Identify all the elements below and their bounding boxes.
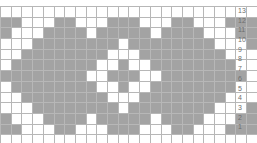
filled-stitch-cell[interactable] [140, 103, 151, 114]
empty-stitch-cell[interactable] [150, 17, 161, 28]
empty-stitch-cell[interactable] [215, 7, 226, 18]
filled-stitch-cell[interactable] [225, 81, 236, 92]
filled-stitch-cell[interactable] [54, 81, 65, 92]
empty-stitch-cell[interactable] [33, 17, 44, 28]
empty-stitch-cell[interactable] [86, 113, 97, 124]
empty-stitch-cell[interactable] [172, 135, 183, 143]
filled-stitch-cell[interactable] [182, 39, 193, 50]
filled-stitch-cell[interactable] [118, 124, 129, 135]
empty-stitch-cell[interactable] [11, 113, 22, 124]
empty-stitch-cell[interactable] [86, 7, 97, 18]
filled-stitch-cell[interactable] [108, 103, 119, 114]
filled-stitch-cell[interactable] [65, 113, 76, 124]
empty-stitch-cell[interactable] [118, 92, 129, 103]
filled-stitch-cell[interactable] [182, 103, 193, 114]
filled-stitch-cell[interactable] [172, 60, 183, 71]
empty-stitch-cell[interactable] [140, 60, 151, 71]
empty-stitch-cell[interactable] [11, 39, 22, 50]
filled-stitch-cell[interactable] [54, 49, 65, 60]
filled-stitch-cell[interactable] [33, 92, 44, 103]
empty-stitch-cell[interactable] [1, 81, 12, 92]
filled-stitch-cell[interactable] [204, 39, 215, 50]
filled-stitch-cell[interactable] [97, 39, 108, 50]
empty-stitch-cell[interactable] [215, 135, 226, 143]
empty-stitch-cell[interactable] [225, 103, 236, 114]
filled-stitch-cell[interactable] [33, 71, 44, 82]
filled-stitch-cell[interactable] [11, 124, 22, 135]
filled-stitch-cell[interactable] [65, 124, 76, 135]
filled-stitch-cell[interactable] [161, 39, 172, 50]
filled-stitch-cell[interactable] [161, 71, 172, 82]
filled-stitch-cell[interactable] [215, 49, 226, 60]
filled-stitch-cell[interactable] [182, 92, 193, 103]
filled-stitch-cell[interactable] [118, 81, 129, 92]
empty-stitch-cell[interactable] [129, 60, 140, 71]
empty-stitch-cell[interactable] [11, 49, 22, 60]
empty-stitch-cell[interactable] [140, 71, 151, 82]
empty-stitch-cell[interactable] [11, 103, 22, 114]
filled-stitch-cell[interactable] [150, 92, 161, 103]
filled-stitch-cell[interactable] [182, 60, 193, 71]
filled-stitch-cell[interactable] [161, 113, 172, 124]
filled-stitch-cell[interactable] [65, 49, 76, 60]
empty-stitch-cell[interactable] [75, 7, 86, 18]
filled-stitch-cell[interactable] [11, 71, 22, 82]
filled-stitch-cell[interactable] [172, 92, 183, 103]
empty-stitch-cell[interactable] [97, 135, 108, 143]
empty-stitch-cell[interactable] [247, 135, 257, 143]
empty-stitch-cell[interactable] [215, 103, 226, 114]
empty-stitch-cell[interactable] [75, 17, 86, 28]
empty-stitch-cell[interactable] [22, 113, 33, 124]
filled-stitch-cell[interactable] [182, 81, 193, 92]
empty-stitch-cell[interactable] [108, 7, 119, 18]
filled-stitch-cell[interactable] [118, 17, 129, 28]
filled-stitch-cell[interactable] [182, 113, 193, 124]
filled-stitch-cell[interactable] [43, 60, 54, 71]
filled-stitch-cell[interactable] [172, 103, 183, 114]
filled-stitch-cell[interactable] [86, 103, 97, 114]
filled-stitch-cell[interactable] [108, 124, 119, 135]
empty-stitch-cell[interactable] [129, 135, 140, 143]
empty-stitch-cell[interactable] [161, 7, 172, 18]
filled-stitch-cell[interactable] [11, 81, 22, 92]
empty-stitch-cell[interactable] [129, 92, 140, 103]
filled-stitch-cell[interactable] [43, 92, 54, 103]
empty-stitch-cell[interactable] [108, 49, 119, 60]
empty-stitch-cell[interactable] [75, 135, 86, 143]
empty-stitch-cell[interactable] [43, 124, 54, 135]
filled-stitch-cell[interactable] [43, 103, 54, 114]
filled-stitch-cell[interactable] [86, 39, 97, 50]
filled-stitch-cell[interactable] [225, 124, 236, 135]
empty-stitch-cell[interactable] [43, 17, 54, 28]
empty-stitch-cell[interactable] [204, 28, 215, 39]
empty-stitch-cell[interactable] [97, 17, 108, 28]
filled-stitch-cell[interactable] [43, 71, 54, 82]
empty-stitch-cell[interactable] [129, 49, 140, 60]
filled-stitch-cell[interactable] [1, 71, 12, 82]
filled-stitch-cell[interactable] [129, 113, 140, 124]
empty-stitch-cell[interactable] [161, 17, 172, 28]
empty-stitch-cell[interactable] [33, 124, 44, 135]
empty-stitch-cell[interactable] [86, 28, 97, 39]
empty-stitch-cell[interactable] [54, 7, 65, 18]
empty-stitch-cell[interactable] [225, 28, 236, 39]
empty-stitch-cell[interactable] [193, 7, 204, 18]
filled-stitch-cell[interactable] [43, 49, 54, 60]
filled-stitch-cell[interactable] [193, 60, 204, 71]
filled-stitch-cell[interactable] [161, 60, 172, 71]
empty-stitch-cell[interactable] [150, 71, 161, 82]
empty-stitch-cell[interactable] [215, 124, 226, 135]
empty-stitch-cell[interactable] [172, 7, 183, 18]
empty-stitch-cell[interactable] [108, 92, 119, 103]
filled-stitch-cell[interactable] [75, 71, 86, 82]
filled-stitch-cell[interactable] [161, 81, 172, 92]
empty-stitch-cell[interactable] [22, 124, 33, 135]
empty-stitch-cell[interactable] [65, 135, 76, 143]
empty-stitch-cell[interactable] [22, 7, 33, 18]
empty-stitch-cell[interactable] [1, 49, 12, 60]
filled-stitch-cell[interactable] [150, 103, 161, 114]
empty-stitch-cell[interactable] [1, 92, 12, 103]
filled-stitch-cell[interactable] [54, 60, 65, 71]
empty-stitch-cell[interactable] [182, 135, 193, 143]
filled-stitch-cell[interactable] [225, 71, 236, 82]
